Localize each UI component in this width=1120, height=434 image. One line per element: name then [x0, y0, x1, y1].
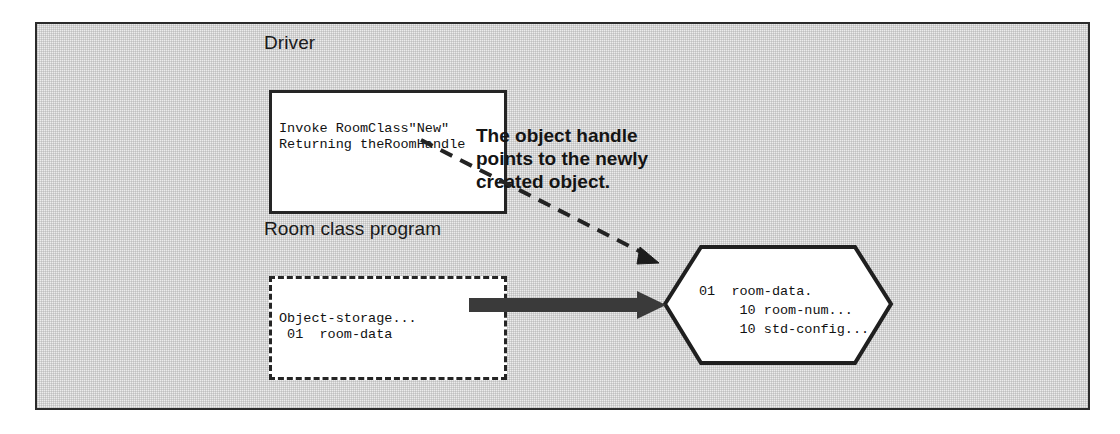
- object-instance-code-text: 01 room-data. 10 room-num... 10 std-conf…: [699, 282, 869, 339]
- driver-box: Invoke RoomClass"New" Returning theRoomH…: [269, 90, 507, 214]
- room-class-program-label: Room class program: [264, 218, 441, 240]
- diagram-screenshot: Driver Invoke RoomClass"New" Returning t…: [0, 0, 1120, 434]
- figure-frame: Driver Invoke RoomClass"New" Returning t…: [35, 22, 1090, 410]
- driver-code-text: Invoke RoomClass"New" Returning theRoomH…: [279, 121, 465, 153]
- driver-label: Driver: [264, 32, 315, 54]
- object-instance-hexagon: 01 room-data. 10 room-num... 10 std-conf…: [661, 242, 895, 368]
- room-class-code-text: Object-storage... 01 room-data: [279, 311, 417, 343]
- annotation-text: The object handle points to the newly cr…: [476, 124, 648, 193]
- room-class-program-box: Object-storage... 01 room-data: [269, 276, 507, 380]
